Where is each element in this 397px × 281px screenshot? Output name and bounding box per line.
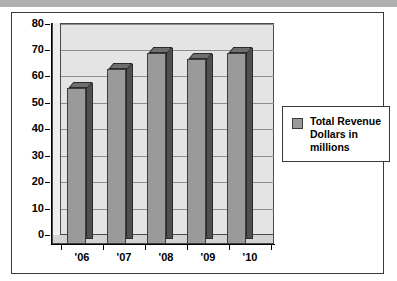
y-tick-50 xyxy=(45,103,50,104)
x-axis-label-06: '06 xyxy=(62,251,102,263)
legend-label-line1: Total Revenue xyxy=(310,115,384,128)
y-tick-10 xyxy=(45,209,50,210)
bar-10-side xyxy=(246,48,253,239)
legend-label-line3: millions xyxy=(310,141,384,154)
bar-08-side xyxy=(166,48,173,239)
plot-region: 80 70 60 50 40 30 20 10 0 xyxy=(20,19,275,267)
bar-10[interactable] xyxy=(227,33,253,244)
x-tick-1 xyxy=(103,245,104,250)
bar-09[interactable] xyxy=(187,33,213,244)
chart-frame: 80 70 60 50 40 30 20 10 0 xyxy=(11,12,384,274)
bar-07-side xyxy=(126,64,133,239)
y-tick-80 xyxy=(45,24,50,25)
y-axis-label-10: 10 xyxy=(22,204,44,213)
bar-06[interactable] xyxy=(67,33,93,244)
y-axis-label-60: 60 xyxy=(22,71,44,80)
y-tick-0 xyxy=(45,235,50,236)
x-tick-0 xyxy=(61,245,62,250)
x-axis-label-08: '08 xyxy=(146,251,186,263)
bar-06-front xyxy=(67,88,86,244)
x-axis-label-10: '10 xyxy=(230,251,270,263)
bar-09-side xyxy=(206,54,213,239)
bar-06-side xyxy=(86,83,93,239)
x-axis-label-07: '07 xyxy=(104,251,144,263)
bar-10-front xyxy=(227,53,246,244)
legend-label: Total Revenue Dollars in millions xyxy=(310,115,384,154)
y-axis-label-0: 0 xyxy=(22,230,44,239)
y-axis-label-30: 30 xyxy=(22,151,44,160)
chart-legend: Total Revenue Dollars in millions xyxy=(282,106,390,162)
bar-08-front xyxy=(147,53,166,244)
top-banner xyxy=(0,0,397,7)
y-axis-label-70: 70 xyxy=(22,45,44,54)
x-axis-label-09: '09 xyxy=(188,251,228,263)
x-tick-4 xyxy=(229,245,230,250)
y-tick-30 xyxy=(45,156,50,157)
gridline-80 xyxy=(61,24,274,25)
bar-07[interactable] xyxy=(107,33,133,244)
x-axis-line xyxy=(51,244,275,245)
y-axis-label-20: 20 xyxy=(22,177,44,186)
legend-label-line2: Dollars in xyxy=(310,128,384,141)
y-axis-label-80: 80 xyxy=(22,19,44,28)
y-tick-60 xyxy=(45,76,50,77)
bar-08[interactable] xyxy=(147,33,173,244)
x-tick-5 xyxy=(271,245,272,250)
y-axis-label-50: 50 xyxy=(22,98,44,107)
x-tick-2 xyxy=(145,245,146,250)
y-tick-20 xyxy=(45,182,50,183)
y-axis-label-40: 40 xyxy=(22,124,44,133)
y-axis-labels: 80 70 60 50 40 30 20 10 0 xyxy=(20,19,44,267)
legend-swatch-icon xyxy=(292,118,303,129)
x-tick-3 xyxy=(187,245,188,250)
bar-07-front xyxy=(107,69,126,244)
y-tick-70 xyxy=(45,50,50,51)
y-axis-line xyxy=(51,23,52,244)
y-tick-40 xyxy=(45,129,50,130)
bar-09-front xyxy=(187,59,206,244)
